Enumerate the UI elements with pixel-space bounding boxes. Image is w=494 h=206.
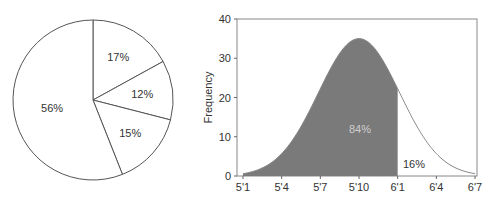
pie-chart: 17%12%15%56% [13, 20, 173, 180]
y-tick-label: 20 [219, 92, 231, 104]
tail-percent-label: 16% [403, 158, 425, 170]
charts-canvas: 17%12%15%56% 5'15'45'75'106'16'46'701020… [0, 0, 494, 206]
frequency-chart: 5'15'45'75'106'16'46'7010203040Frequency… [202, 13, 482, 193]
y-tick-label: 10 [219, 131, 231, 143]
x-tick-label: 5'4 [274, 181, 288, 193]
shaded-percent-label: 84% [349, 123, 371, 135]
x-tick-label: 5'1 [236, 181, 250, 193]
y-tick-label: 0 [225, 170, 231, 182]
x-tick-label: 6'7 [468, 181, 482, 193]
pie-slice-label: 56% [41, 102, 63, 114]
y-tick-label: 30 [219, 52, 231, 64]
pie-slice-label: 12% [131, 88, 153, 100]
x-tick-label: 6'1 [390, 181, 404, 193]
y-tick-label: 40 [219, 13, 231, 25]
x-tick-label: 5'10 [349, 181, 369, 193]
y-axis-label: Frequency [202, 71, 214, 123]
pie-slice-label: 15% [119, 127, 141, 139]
x-tick-label: 6'4 [429, 181, 443, 193]
pie-slice-label: 17% [107, 51, 129, 63]
x-tick-label: 5'7 [313, 181, 327, 193]
